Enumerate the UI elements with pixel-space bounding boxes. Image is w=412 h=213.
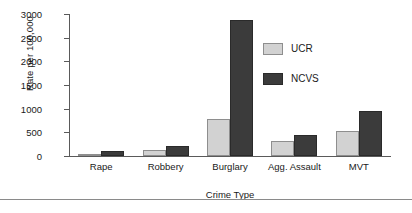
bar-ncvs-agg-assault (294, 135, 317, 156)
y-axis-tick (64, 61, 69, 62)
y-axis-tick (64, 109, 69, 110)
bar-ucr-robbery (143, 150, 166, 156)
legend-label-ncvs: NCVS (291, 73, 319, 84)
bar-ucr-mvt (336, 131, 359, 156)
y-axis-tick-label: 1500 (2, 81, 42, 91)
legend-item-ucr: UCR (263, 42, 319, 55)
bar-ncvs-rape (101, 151, 124, 156)
bar-ucr-burglary (207, 119, 230, 156)
x-axis-line (69, 156, 391, 157)
x-axis-tick-label: Agg. Assault (268, 161, 321, 172)
y-axis-tick (64, 132, 69, 133)
y-axis-tick-label: 500 (2, 128, 42, 138)
y-axis-tick-label: 3000 (2, 10, 42, 20)
bar-ncvs-robbery (166, 146, 189, 156)
legend-label-ucr: UCR (291, 43, 313, 54)
plot-area: 050010001500200025003000 RapeRobberyBurg… (69, 14, 391, 156)
y-axis-tick-label: 2000 (2, 57, 42, 67)
y-axis-tick (64, 14, 69, 15)
y-axis-tick (64, 38, 69, 39)
bar-group (143, 14, 189, 156)
chart-legend: UCR NCVS (263, 42, 319, 102)
bar-chart-figure: Rate per 100,000 05001000150020002500300… (0, 0, 412, 213)
y-axis-line (69, 14, 70, 156)
bar-ucr-rape (78, 154, 101, 156)
page-divider (0, 199, 412, 200)
y-axis-tick-label: 0 (2, 152, 42, 162)
x-axis-tick-label: Burglary (212, 161, 247, 172)
bar-ncvs-burglary (230, 20, 253, 156)
bar-group (78, 14, 124, 156)
x-axis-tick-label: MVT (349, 161, 369, 172)
y-axis-tick (64, 85, 69, 86)
bar-ncvs-mvt (359, 111, 382, 156)
bar-ucr-agg-assault (271, 141, 294, 156)
x-axis-tick-label: Rape (90, 161, 113, 172)
y-axis-tick-label: 1000 (2, 105, 42, 115)
legend-item-ncvs: NCVS (263, 72, 319, 85)
legend-swatch-ucr (263, 43, 283, 55)
x-axis-tick-label: Robbery (148, 161, 184, 172)
y-axis-tick-label: 2500 (2, 34, 42, 44)
legend-swatch-ncvs (263, 73, 283, 85)
bar-group (336, 14, 382, 156)
bar-group (207, 14, 253, 156)
y-axis-tick (64, 156, 69, 157)
